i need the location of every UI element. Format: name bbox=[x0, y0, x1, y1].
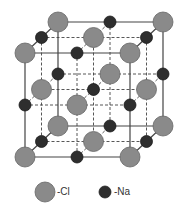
legend-na-label: -Na bbox=[114, 186, 130, 197]
cl-ion bbox=[32, 80, 52, 100]
na-ion bbox=[71, 47, 83, 59]
cl-ion bbox=[15, 147, 35, 167]
cl-ion bbox=[48, 116, 68, 136]
na-ion bbox=[124, 99, 136, 111]
legend-cl-label: -Cl bbox=[57, 186, 70, 197]
legend bbox=[35, 182, 111, 202]
na-ion bbox=[104, 120, 116, 132]
legend-cl-swatch bbox=[35, 182, 55, 202]
cl-ion bbox=[153, 116, 173, 136]
cl-ion bbox=[48, 12, 68, 32]
cl-ion bbox=[67, 95, 87, 115]
cl-ion bbox=[120, 147, 140, 167]
legend-na-swatch bbox=[99, 186, 111, 198]
na-ion bbox=[104, 16, 116, 28]
lattice-svg bbox=[0, 0, 181, 216]
nacl-lattice-diagram: -Cl -Na bbox=[0, 0, 181, 216]
cl-ion bbox=[84, 28, 104, 48]
na-ion bbox=[52, 68, 64, 80]
na-ion bbox=[36, 32, 48, 44]
na-ion bbox=[19, 99, 31, 111]
cl-ion bbox=[137, 80, 157, 100]
na-ion bbox=[88, 84, 100, 96]
na-ion bbox=[157, 68, 169, 80]
cl-ion bbox=[84, 132, 104, 152]
cl-ion bbox=[120, 43, 140, 63]
na-ion bbox=[141, 32, 153, 44]
na-ion bbox=[36, 136, 48, 148]
na-ion bbox=[141, 136, 153, 148]
atoms bbox=[15, 12, 173, 167]
cl-ion bbox=[153, 12, 173, 32]
na-ion bbox=[71, 151, 83, 163]
cl-ion bbox=[15, 43, 35, 63]
cl-ion bbox=[100, 64, 120, 84]
